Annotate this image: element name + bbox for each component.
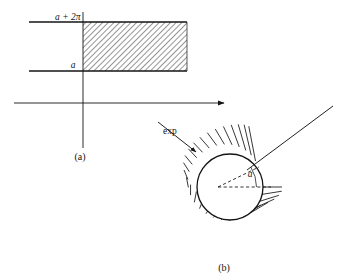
panel-a-caption: (a): [74, 151, 85, 163]
panel-b-group: a exp (b): [158, 106, 333, 274]
lower-bound-label: a: [71, 60, 76, 70]
figure-svg: a + 2π a (a): [0, 0, 348, 279]
panel-b-caption: (b): [218, 262, 230, 274]
angle-a-label: a: [248, 169, 253, 179]
exp-arrow: [158, 122, 196, 152]
hatched-strip-region: [83, 22, 187, 71]
outgoing-ray: [247, 106, 333, 170]
upper-bound-label: a + 2π: [55, 12, 81, 22]
figure-container: a + 2π a (a): [0, 0, 348, 279]
panel-a-group: a + 2π a (a): [14, 12, 224, 163]
